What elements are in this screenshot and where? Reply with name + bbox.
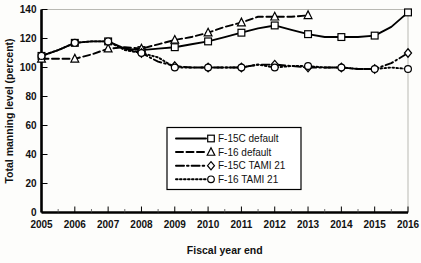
series-4 [38, 38, 411, 72]
series-layer [38, 9, 412, 73]
marker-square [205, 38, 212, 45]
marker-square [208, 135, 215, 142]
y-axis-ticks: 020406080100120140 [20, 4, 48, 218]
marker-circle [305, 63, 312, 70]
x-tick-label: 2011 [231, 219, 253, 230]
y-tick-label: 40 [25, 149, 37, 160]
marker-circle [38, 53, 45, 60]
marker-circle [208, 176, 215, 183]
x-tick-label: 2007 [97, 219, 120, 230]
x-tick-label: 2006 [64, 219, 87, 230]
legend-label-3: F-15C TAMI 21 [218, 160, 286, 171]
y-tick-label: 80 [25, 91, 37, 102]
y-tick-label: 100 [20, 62, 37, 73]
x-tick-label: 2013 [297, 219, 320, 230]
marker-square [405, 9, 412, 16]
series-path [42, 12, 409, 56]
marker-circle [71, 39, 78, 46]
marker-circle [405, 66, 412, 73]
marker-diamond [404, 49, 411, 58]
marker-triangle [237, 18, 245, 26]
marker-circle [338, 64, 345, 71]
x-tick-label: 2009 [164, 219, 187, 230]
marker-circle [138, 50, 145, 57]
x-tick-label: 2010 [197, 219, 220, 230]
chart-container: 020406080100120140 200520062007200820092… [0, 0, 421, 263]
x-tick-label: 2005 [30, 219, 53, 230]
marker-circle [371, 66, 378, 73]
marker-square [305, 31, 312, 38]
x-axis-ticks: 2005200620072008200920102011201220132014… [30, 207, 419, 230]
x-tick-label: 2015 [364, 219, 387, 230]
marker-circle [238, 64, 245, 71]
marker-square [271, 22, 278, 29]
x-tick-label: 2016 [397, 219, 420, 230]
y-tick-label: 120 [20, 33, 37, 44]
marker-circle [271, 64, 278, 71]
y-tick-label: 140 [20, 4, 37, 15]
x-axis-title: Fiscal year end [187, 244, 263, 256]
marker-circle [205, 64, 212, 71]
marker-square [171, 44, 178, 51]
chart-legend: F-15C defaultF-16 defaultF-15C TAMI 21F-… [167, 128, 301, 190]
series-1 [38, 9, 411, 59]
series-path [42, 41, 409, 69]
y-axis-title: Total manning level (percent) [3, 38, 15, 183]
marker-square [338, 34, 345, 41]
legend-label-1: F-15C default [218, 133, 279, 144]
legend-label-2: F-16 default [218, 147, 272, 158]
line-chart: 020406080100120140 200520062007200820092… [0, 0, 421, 263]
series-2 [38, 11, 312, 62]
y-tick-label: 60 [25, 120, 37, 131]
marker-circle [171, 64, 178, 71]
marker-square [371, 32, 378, 39]
marker-triangle [304, 11, 312, 19]
legend-label-4: F-16 TAMI 21 [218, 174, 279, 185]
x-tick-label: 2012 [264, 219, 287, 230]
y-tick-label: 20 [25, 178, 37, 189]
y-tick-label: 0 [31, 207, 37, 218]
marker-circle [105, 38, 112, 45]
x-tick-label: 2014 [330, 219, 353, 230]
marker-square [238, 29, 245, 36]
x-tick-label: 2008 [130, 219, 153, 230]
